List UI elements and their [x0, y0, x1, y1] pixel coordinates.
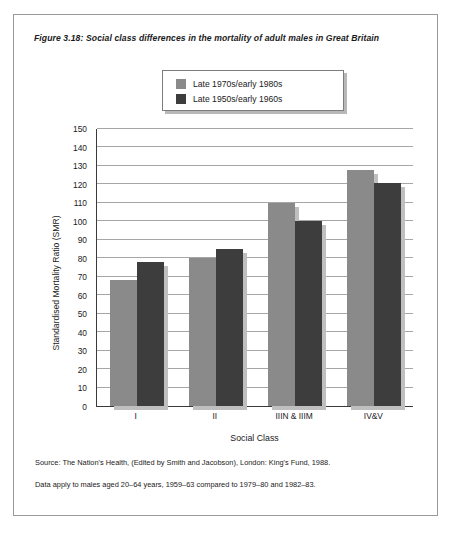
bar-group — [185, 129, 247, 406]
x-axis-tick: IV&V — [364, 411, 383, 421]
bar-chart: Standardised Mortality Ratio (SMR) 01020… — [34, 123, 419, 443]
y-axis-tick: 40 — [78, 328, 87, 338]
figure-title-text: Social class differences in the mortalit… — [86, 33, 379, 43]
y-axis-tick: 30 — [78, 346, 87, 356]
footnote-source: Source: The Nation's Health, (Edited by … — [35, 458, 425, 467]
bar-wrapper — [189, 129, 216, 406]
bar-late-1950s-early-1960s — [137, 262, 164, 406]
footnote-note: Data apply to males aged 20–64 years, 19… — [35, 480, 425, 489]
y-axis-tick: 100 — [73, 217, 87, 227]
y-axis-tick: 150 — [73, 124, 87, 134]
x-axis-tick: II — [213, 411, 218, 421]
bar-wrapper — [374, 129, 401, 406]
y-axis-tick-labels: 0102030405060708090100110120130140150 — [34, 129, 92, 407]
bar-wrapper — [216, 129, 243, 406]
y-axis-tick: 140 — [73, 143, 87, 153]
legend-swatch-series-2 — [176, 94, 186, 104]
figure-title: Figure 3.18:Social class differences in … — [34, 33, 424, 43]
y-axis-tick: 60 — [78, 291, 87, 301]
figure-frame: Figure 3.18:Social class differences in … — [13, 14, 438, 516]
bar-late-1970s-early-1980s — [347, 170, 374, 406]
y-axis-tick: 90 — [78, 235, 87, 245]
x-axis-tick: IIIN & IIIM — [276, 411, 313, 421]
y-axis-tick: 130 — [73, 161, 87, 171]
y-axis-tick: 10 — [78, 383, 87, 393]
y-axis-tick: 20 — [78, 365, 87, 375]
y-axis-tick: 120 — [73, 180, 87, 190]
chart-legend: Late 1970s/early 1980s Late 1950s/early … — [162, 70, 344, 111]
y-axis-tick: 0 — [82, 402, 87, 412]
bar-late-1950s-early-1960s — [374, 183, 401, 406]
legend-item-late-1950s: Late 1950s/early 1960s — [176, 91, 343, 106]
legend-swatch-series-1 — [176, 79, 186, 89]
bar-late-1970s-early-1980s — [189, 258, 216, 406]
bar-wrapper — [295, 129, 322, 406]
bar-wrapper — [137, 129, 164, 406]
bar-group — [264, 129, 326, 406]
x-axis-title: Social Class — [96, 433, 413, 443]
bar-wrapper — [268, 129, 295, 406]
bar-group — [106, 129, 168, 406]
bar-group — [343, 129, 405, 406]
bar-late-1970s-early-1980s — [110, 280, 137, 406]
bar-late-1950s-early-1960s — [295, 221, 322, 406]
bar-wrapper — [347, 129, 374, 406]
legend-label-series-2: Late 1950s/early 1960s — [193, 94, 282, 104]
figure-number: Figure 3.18: — [34, 33, 86, 43]
bar-late-1970s-early-1980s — [268, 203, 295, 406]
y-axis-tick: 110 — [74, 198, 87, 208]
legend-item-late-1970s: Late 1970s/early 1980s — [176, 76, 343, 91]
bar-groups — [97, 129, 413, 406]
x-axis-tick-labels: IIIIIIN & IIIMIV&V — [96, 411, 413, 425]
x-axis-tick: I — [134, 411, 136, 421]
plot-area — [96, 129, 413, 407]
bar-wrapper — [110, 129, 137, 406]
footnotes: Source: The Nation's Health, (Edited by … — [35, 458, 425, 502]
legend-label-series-1: Late 1970s/early 1980s — [193, 79, 282, 89]
y-axis-tick: 80 — [78, 254, 87, 264]
y-axis-tick: 70 — [78, 272, 87, 282]
y-axis-tick: 50 — [78, 309, 87, 319]
bar-late-1950s-early-1960s — [216, 249, 243, 406]
